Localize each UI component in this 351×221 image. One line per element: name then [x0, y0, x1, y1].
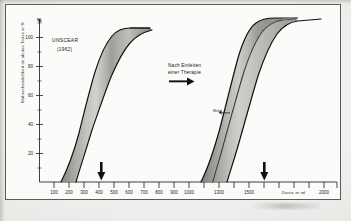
x-axis-label: Dosis in rd: [282, 190, 305, 195]
dose-response-plot: [0, 0, 351, 221]
y-tick-20: 20: [20, 151, 33, 156]
y-tick-80: 80: [20, 64, 33, 69]
x-axis-ticks: [54, 182, 337, 188]
annotation-mittel: Mittel: [213, 109, 221, 113]
y-axis-unit-symbol: %: [37, 17, 42, 23]
therapy-pointer-arrow: [169, 77, 195, 85]
x-tick-2000: 2000: [313, 190, 335, 195]
annotation-unscear: UNSCEAR: [52, 38, 78, 43]
annotation-unscear-year: (1962): [57, 47, 72, 52]
y-tick-60: 60: [20, 93, 33, 98]
x-tick-1500: 1500: [238, 190, 260, 195]
band-unscear-1962: [61, 28, 152, 182]
y-tick-100: 100: [20, 35, 33, 40]
y-axis-label: Wahrscheinlichkeit de akuten Todes in %: [20, 3, 25, 123]
right-dose-arrow-marker: [260, 162, 268, 181]
axis-lines: [40, 19, 338, 182]
x-tick-1000: 1000: [178, 190, 200, 195]
annotation-therapy-line2: einer Therapie: [168, 70, 201, 75]
left-dose-arrow-marker: [97, 162, 105, 181]
annotation-therapy-line1: Nach Einleiten: [168, 63, 201, 68]
figure-root: Wahrscheinlichkeit de akuten Todes in % …: [0, 0, 351, 221]
y-tick-40: 40: [20, 122, 33, 127]
x-tick-1300: 1300: [208, 190, 230, 195]
